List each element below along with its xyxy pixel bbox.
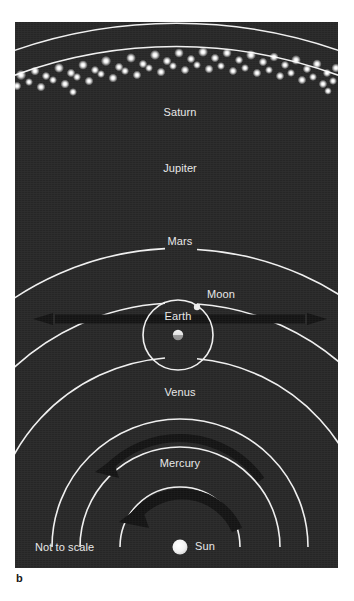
earth-body (173, 330, 183, 340)
orbit-label-mars: Mars (168, 235, 193, 247)
orbit-label-saturn: Saturn (163, 106, 196, 118)
scale-note: Not to scale (35, 541, 94, 553)
orbit-label-jupiter: Jupiter (163, 162, 197, 174)
sun-body (173, 540, 188, 555)
orbit-label-mercury: Mercury (160, 457, 200, 469)
orbit-label-venus: Venus (164, 386, 195, 398)
figure-container: Saturn Jupiter Mars Earth Moon Venus Mer… (0, 0, 354, 601)
star-label-sun: Sun (195, 540, 215, 552)
solar-system-diagram (15, 22, 338, 568)
figure-panel-letter: b (16, 572, 23, 584)
mercury-motion-arrow (119, 494, 237, 530)
moon-body (194, 304, 200, 310)
planet-label-earth: Earth (165, 310, 192, 322)
celestial-sphere-band (15, 23, 338, 96)
fixed-stars (15, 47, 338, 96)
satellite-label-moon: Moon (207, 288, 235, 300)
diagram-panel: Saturn Jupiter Mars Earth Moon Venus Mer… (15, 22, 338, 568)
